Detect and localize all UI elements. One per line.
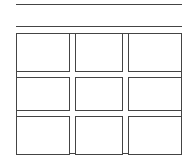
grid-cell-r1-c1 xyxy=(16,33,70,72)
grid-cell-r1-c3 xyxy=(128,33,182,72)
grid-cell-r2-c2 xyxy=(75,77,123,111)
grid-cell-r2-c1 xyxy=(16,77,70,111)
grid-cell-r2-c3 xyxy=(128,77,182,111)
grid-cell-r3-c1 xyxy=(16,116,70,155)
top-rule-line xyxy=(16,4,182,5)
grid-cell-r1-c2 xyxy=(75,33,123,72)
second-rule-line xyxy=(16,26,182,27)
grid-cell-r3-c2 xyxy=(75,116,123,155)
grid-cell-r3-c3 xyxy=(128,116,182,155)
